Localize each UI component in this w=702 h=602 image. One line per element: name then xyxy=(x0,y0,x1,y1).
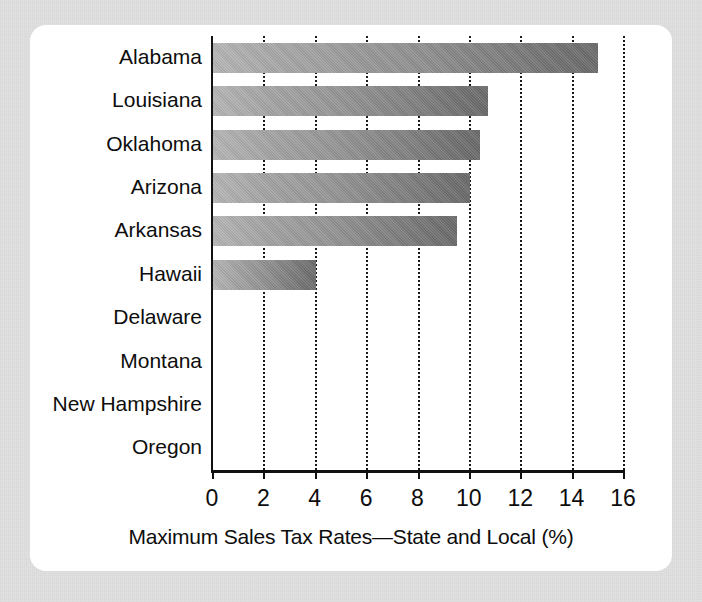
x-tick-0 xyxy=(212,470,214,479)
bar-arkansas xyxy=(213,216,457,246)
y-axis-line xyxy=(211,36,213,472)
category-label-oklahoma: Oklahoma xyxy=(0,132,202,156)
x-tick-10 xyxy=(469,470,471,479)
category-label-alabama: Alabama xyxy=(0,45,202,69)
x-tick-label-16: 16 xyxy=(603,485,643,512)
x-tick-6 xyxy=(366,470,368,479)
category-label-oregon: Oregon xyxy=(0,435,202,459)
category-label-louisiana: Louisiana xyxy=(0,88,202,112)
x-tick-2 xyxy=(263,470,265,479)
x-tick-label-4: 4 xyxy=(295,485,335,512)
bar-arizona xyxy=(213,173,470,203)
x-tick-label-0: 0 xyxy=(192,485,232,512)
bar-hawaii xyxy=(213,260,316,290)
bar-louisiana xyxy=(213,86,488,116)
bar-oklahoma xyxy=(213,130,480,160)
x-tick-4 xyxy=(315,470,317,479)
gridline-14 xyxy=(572,36,574,470)
category-label-arkansas: Arkansas xyxy=(0,218,202,242)
x-tick-12 xyxy=(520,470,522,479)
x-axis-title: Maximum Sales Tax Rates—State and Local … xyxy=(30,525,672,549)
category-label-hawaii: Hawaii xyxy=(0,262,202,286)
x-tick-label-14: 14 xyxy=(552,485,592,512)
category-label-new-hampshire: New Hampshire xyxy=(0,392,202,416)
figure-frame: AlabamaLouisianaOklahomaArizonaArkansasH… xyxy=(0,0,702,602)
gridline-16 xyxy=(623,36,625,470)
x-tick-label-8: 8 xyxy=(398,485,438,512)
x-tick-label-6: 6 xyxy=(346,485,386,512)
x-tick-label-12: 12 xyxy=(500,485,540,512)
chart-panel: AlabamaLouisianaOklahomaArizonaArkansasH… xyxy=(30,25,672,571)
x-tick-label-10: 10 xyxy=(449,485,489,512)
category-label-delaware: Delaware xyxy=(0,305,202,329)
x-tick-label-2: 2 xyxy=(243,485,283,512)
category-label-arizona: Arizona xyxy=(0,175,202,199)
x-tick-16 xyxy=(623,470,625,479)
category-label-montana: Montana xyxy=(0,349,202,373)
plot-area: AlabamaLouisianaOklahomaArizonaArkansasH… xyxy=(30,25,672,571)
x-tick-14 xyxy=(572,470,574,479)
bar-alabama xyxy=(213,43,598,73)
gridline-12 xyxy=(520,36,522,470)
x-tick-8 xyxy=(418,470,420,479)
